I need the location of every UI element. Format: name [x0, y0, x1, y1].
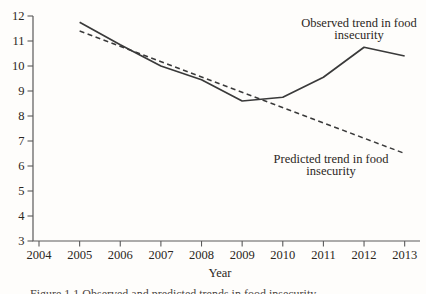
x-tick-label: 2006: [108, 248, 133, 262]
x-tick-label: 2004: [27, 248, 53, 262]
y-tick-label: 5: [18, 184, 24, 198]
x-tick-label: 2012: [352, 248, 377, 262]
x-tick-label: 2009: [230, 248, 255, 262]
figure-container: 3456789101112200420052006200720082009201…: [0, 0, 426, 294]
y-tick-label: 8: [18, 109, 24, 123]
x-tick-label: 2013: [392, 248, 417, 262]
x-axis-title: Year: [160, 266, 280, 281]
predicted-line: [80, 31, 405, 154]
y-tick-label: 4: [18, 209, 25, 223]
figure-caption-clipped: Figure 1.1 Observed and predicted trends…: [30, 287, 422, 294]
y-tick-label: 9: [18, 84, 24, 98]
y-tick-label: 10: [12, 59, 25, 73]
x-tick-label: 2010: [270, 248, 295, 262]
line-chart-plot: 3456789101112200420052006200720082009201…: [0, 0, 426, 294]
x-tick-label: 2005: [67, 248, 92, 262]
y-tick-label: 3: [18, 234, 24, 248]
x-tick-label: 2007: [148, 248, 173, 262]
x-tick-label: 2011: [311, 248, 336, 262]
x-tick-label: 2008: [189, 248, 214, 262]
annotation-predicted-trend: Predicted trend in food insecurity: [271, 154, 391, 177]
annotation-observed-trend: Observed trend in food insecurity: [299, 18, 419, 41]
y-tick-label: 7: [18, 134, 24, 148]
y-tick-label: 6: [18, 159, 24, 173]
y-tick-label: 11: [12, 34, 24, 48]
y-tick-label: 12: [12, 9, 25, 23]
